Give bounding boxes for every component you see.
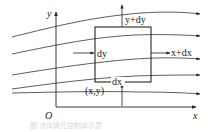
x-axis-label: x	[192, 110, 198, 121]
streamline-5	[12, 92, 200, 94]
width-label: dx	[112, 76, 122, 87]
top-label: y+dy	[125, 14, 146, 25]
streamline-3	[12, 58, 200, 75]
right-label: x+dx	[171, 47, 192, 58]
flow-element-diagram: y x O y+dy x+dx dy dx (x,y) 图 流体微元控制体示意	[0, 0, 210, 132]
origin-label: O	[45, 110, 52, 121]
height-label: dy	[97, 48, 107, 59]
corner-label: (x,y)	[85, 85, 104, 97]
streamline-1	[12, 12, 200, 37]
y-axis-label: y	[46, 8, 52, 19]
figure-caption: 图 流体微元控制体示意	[30, 121, 102, 130]
